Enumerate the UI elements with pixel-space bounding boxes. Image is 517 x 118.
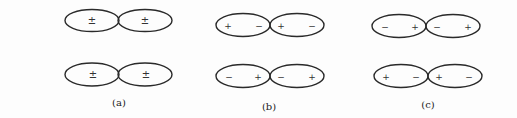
panel-caption: (c) xyxy=(421,99,435,110)
charge-sign: − xyxy=(255,21,263,31)
charge-sign: + xyxy=(411,22,419,32)
panel-caption: (a) xyxy=(112,97,126,108)
panel-c: − + − + + − + − (c) xyxy=(372,15,482,111)
charge-sign: + xyxy=(435,72,443,82)
charge-sign: ± xyxy=(142,69,150,80)
charge-sign: − xyxy=(412,72,420,82)
charge-sign: + xyxy=(254,72,262,82)
lobe-left xyxy=(216,65,270,88)
charge-sign: + xyxy=(308,72,316,82)
charge-sign: − xyxy=(465,72,473,82)
panel-caption: (b) xyxy=(262,101,276,112)
charge-sign: − xyxy=(381,22,389,32)
panel-c-row-2: + − + − xyxy=(374,65,482,88)
charge-sign: − xyxy=(277,72,285,82)
panel-b: + − + − − + − + (b) xyxy=(216,14,324,113)
charge-sign: + xyxy=(224,21,232,31)
panel-b-row-2: − + − + xyxy=(216,65,324,88)
charge-sign: + xyxy=(382,72,390,82)
panel-a-row-2: ± ± xyxy=(65,63,172,86)
panel-c-row-1: − + − + xyxy=(372,15,480,38)
charge-sign: + xyxy=(464,22,472,32)
charge-sign: ± xyxy=(88,15,96,26)
panel-b-row-1: + − + − xyxy=(216,14,324,37)
panel-a-row-1: ± ± xyxy=(65,10,172,32)
charge-sign: − xyxy=(308,21,316,31)
dipole-interaction-diagram: ± ± ± ± (a) + − + − − + − + (b) xyxy=(0,0,517,118)
charge-sign: + xyxy=(277,21,285,31)
charge-sign: ± xyxy=(141,15,149,26)
panel-a: ± ± ± ± (a) xyxy=(65,10,172,109)
charge-sign: − xyxy=(433,22,441,32)
charge-sign: ± xyxy=(89,69,97,80)
charge-sign: − xyxy=(225,72,233,82)
